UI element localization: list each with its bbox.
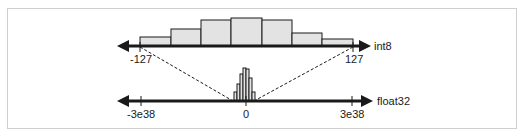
float32-max-label: 3e38	[340, 108, 364, 120]
arrow-left-icon	[117, 95, 129, 107]
histogram-bar	[231, 18, 262, 46]
histogram-bar	[171, 29, 201, 46]
float32-histogram	[234, 68, 255, 101]
mapping-line-right	[254, 47, 353, 101]
quantization-diagram: -127 127 int8 -3e38 0 3e38 float32	[0, 0, 522, 139]
mapping-line-left	[140, 47, 233, 101]
int8-histogram	[140, 18, 353, 46]
arrow-right-icon	[359, 40, 371, 52]
int8-axis-name: int8	[374, 40, 392, 52]
arrow-left-icon	[117, 40, 129, 52]
histogram-bar	[262, 20, 292, 46]
arrow-right-icon	[361, 95, 373, 107]
float32-min-label: -3e38	[127, 108, 155, 120]
int8-min-label: -127	[130, 53, 152, 65]
histogram-bar	[292, 33, 322, 46]
float32-zero-label: 0	[243, 108, 249, 120]
float32-axis-name: float32	[377, 95, 410, 107]
histogram-bar	[201, 20, 231, 46]
int8-max-label: 127	[345, 53, 363, 65]
